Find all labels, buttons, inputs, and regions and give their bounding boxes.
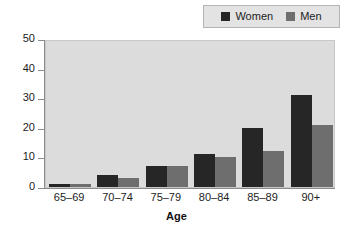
x-axis-title: Age [0, 211, 353, 222]
bar-group-80–84 [191, 41, 239, 187]
y-tick-20: 20 [38, 129, 44, 130]
bar-men-85–89 [263, 151, 284, 187]
y-axis-line [44, 40, 45, 189]
bar-women-90+ [291, 95, 312, 187]
bar-men-80–84 [215, 157, 236, 187]
bar-men-90+ [312, 125, 333, 187]
bar-group-90+ [288, 41, 336, 187]
bar-men-75–79 [167, 166, 188, 187]
bar-men-70–74 [118, 178, 139, 187]
legend-swatch-women [221, 12, 230, 21]
x-tick-label-75–79: 75–79 [142, 192, 190, 203]
bar-women-85–89 [242, 128, 263, 187]
y-tick-10: 10 [38, 158, 44, 159]
y-tick-label-50: 50 [23, 33, 35, 44]
bar-group-70–74 [94, 41, 142, 187]
x-tick-label-80–84: 80–84 [190, 192, 238, 203]
legend-entry-men: Men [286, 11, 321, 22]
bar-chart-figure: Women Men 01020304050 65–6970–7475–7980–… [0, 0, 353, 236]
x-tick-label-65–69: 65–69 [45, 192, 93, 203]
chart-legend: Women Men [203, 5, 340, 28]
y-tick-40: 40 [38, 70, 44, 71]
legend-entry-women: Women [221, 11, 273, 22]
bar-women-75–79 [146, 166, 167, 187]
y-tick-label-20: 20 [23, 122, 35, 133]
x-tick-label-70–74: 70–74 [93, 192, 141, 203]
x-tick-label-85–89: 85–89 [238, 192, 286, 203]
y-tick-label-10: 10 [23, 151, 35, 162]
x-tick-label-90+: 90+ [287, 192, 335, 203]
y-tick-30: 30 [38, 99, 44, 100]
y-tick-50: 50 [38, 40, 44, 41]
y-tick-0: 0 [38, 188, 44, 189]
legend-swatch-men [286, 12, 295, 21]
bar-women-80–84 [194, 154, 215, 187]
bars-container [46, 41, 334, 187]
legend-label-women: Women [235, 11, 273, 22]
y-tick-label-40: 40 [23, 63, 35, 74]
bar-women-65–69 [49, 184, 70, 187]
plot-area [45, 40, 335, 188]
bar-women-70–74 [97, 175, 118, 187]
y-tick-label-0: 0 [29, 181, 35, 192]
legend-label-men: Men [300, 11, 321, 22]
bar-group-85–89 [239, 41, 287, 187]
x-axis-line [44, 188, 335, 189]
bar-group-65–69 [46, 41, 94, 187]
y-tick-label-30: 30 [23, 92, 35, 103]
bar-group-75–79 [143, 41, 191, 187]
bar-men-65–69 [70, 184, 91, 187]
